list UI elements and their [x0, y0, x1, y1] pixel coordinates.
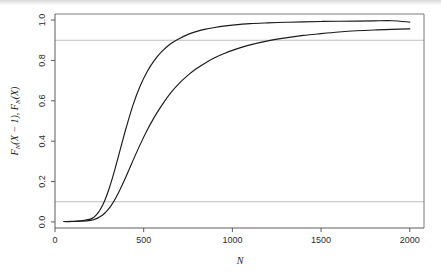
y-axis: 0.00.20.40.60.81.0 — [37, 14, 55, 228]
y-axis-ticks: 0.00.20.40.60.81.0 — [37, 14, 55, 228]
y-tick-label: 0.6 — [37, 95, 47, 108]
x-tick-label: 1000 — [222, 235, 242, 245]
y-axis-title: FN(X − 1), FN(X) — [9, 86, 22, 157]
y-title-arg2: (X) — [9, 86, 21, 99]
plot-box — [55, 14, 424, 228]
x-axis-title: N — [236, 255, 245, 266]
x-axis: 0500100015002000 — [52, 228, 424, 245]
data-curves — [64, 21, 410, 222]
y-title-arg1: (X − 1), — [9, 110, 21, 145]
cdf-plot-figure: 0.00.20.40.60.81.0 0500100015002000 N FN… — [0, 0, 441, 279]
y-tick-label: 0.8 — [37, 54, 47, 67]
y-tick-label: 0.0 — [37, 216, 47, 229]
curve-fn-x-minus-1 — [64, 21, 410, 222]
x-axis-ticks: 0500100015002000 — [52, 228, 419, 245]
curve-fn-x — [64, 29, 410, 222]
x-tick-label: 2000 — [400, 235, 420, 245]
x-tick-label: 0 — [52, 235, 57, 245]
y-tick-label: 0.2 — [37, 175, 47, 188]
reference-lines — [55, 40, 424, 202]
x-tick-label: 500 — [136, 235, 151, 245]
x-tick-label: 1500 — [311, 235, 331, 245]
plot-svg: 0.00.20.40.60.81.0 0500100015002000 N FN… — [0, 0, 441, 279]
svg-text:FN(X − 1), FN(X): FN(X − 1), FN(X) — [9, 86, 22, 157]
y-tick-label: 1.0 — [37, 14, 47, 27]
y-tick-label: 0.4 — [37, 135, 47, 148]
